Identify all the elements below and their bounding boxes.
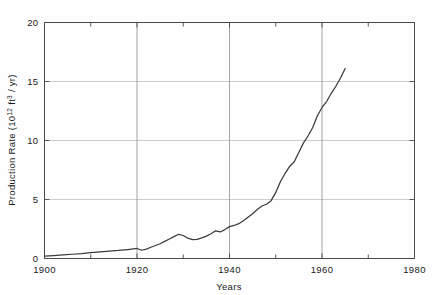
ytick-label-15: 15 bbox=[27, 76, 38, 87]
ytick-label-0: 0 bbox=[33, 253, 39, 264]
xtick-label-1900: 1900 bbox=[33, 264, 56, 275]
xtick-label-1920: 1920 bbox=[126, 264, 149, 275]
y-axis-title-group: Production Rate (1012 ft3 / yr) bbox=[6, 74, 17, 206]
chart-figure: 19001920194019601980 05101520 Years Prod… bbox=[0, 0, 444, 295]
figure-background bbox=[0, 0, 444, 295]
y-axis-title: Production Rate (1012 ft3 / yr) bbox=[6, 74, 17, 206]
xtick-label-1980: 1980 bbox=[403, 264, 426, 275]
ytick-label-20: 20 bbox=[27, 17, 38, 28]
y-axis-title-suffix: / yr) bbox=[6, 74, 17, 95]
y-axis-title-prefix: Production Rate (10 bbox=[6, 116, 17, 206]
y-axis-title-exponent-12: 12 bbox=[6, 108, 13, 116]
production-rate-line-chart: 19001920194019601980 05101520 Years Prod… bbox=[0, 0, 444, 295]
xtick-label-1960: 1960 bbox=[311, 264, 334, 275]
ytick-label-5: 5 bbox=[33, 194, 39, 205]
x-axis-title: Years bbox=[216, 281, 241, 292]
y-axis-title-middle: ft bbox=[6, 99, 17, 108]
xtick-label-1940: 1940 bbox=[218, 264, 241, 275]
ytick-label-10: 10 bbox=[27, 135, 38, 146]
